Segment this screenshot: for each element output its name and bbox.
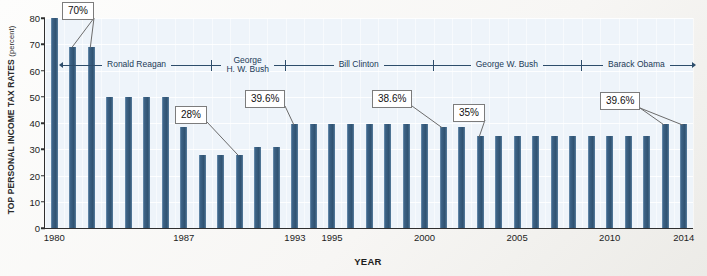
value-callout: 39.6% xyxy=(245,90,285,108)
callout-leader-lines xyxy=(0,0,707,276)
value-callout: 38.6% xyxy=(372,90,412,108)
value-callout: 70% xyxy=(62,2,94,20)
value-callout: 35% xyxy=(453,104,485,122)
tax-rate-bar-chart: TOP PERSONAL INCOME TAX RATES (percent) … xyxy=(0,0,707,276)
value-callout: 39.6% xyxy=(600,92,640,110)
value-callout: 28% xyxy=(175,106,207,124)
